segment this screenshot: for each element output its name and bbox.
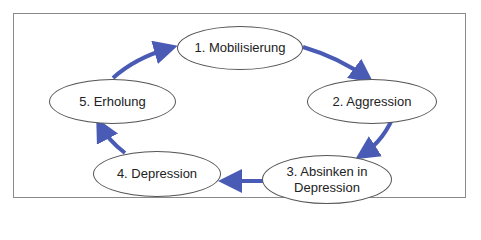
node-label: 4. Depression [117,166,197,182]
node-mobilisierung: 1. Mobilisierung [177,26,303,70]
node-label: 1. Mobilisierung [194,40,285,56]
node-depression: 4. Depression [93,151,221,197]
node-label: 3. Absinken in Depression [287,164,368,196]
node-aggression: 2. Aggression [307,79,437,124]
node-absinken-in-depression: 3. Absinken in Depression [262,155,392,204]
arrow-4-to-5 [100,125,125,153]
arrow-5-to-1 [113,48,170,78]
node-erholung: 5. Erholung [49,79,176,124]
arrow-1-to-2 [303,47,367,78]
node-label: 2. Aggression [333,94,412,110]
node-label: 5. Erholung [79,94,146,110]
